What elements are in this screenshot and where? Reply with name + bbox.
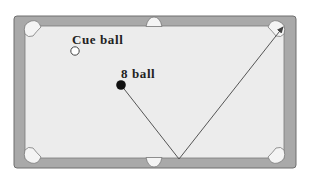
eight-ball-label: 8 ball	[121, 67, 155, 80]
pool-table-diagram	[0, 0, 310, 184]
cue-ball	[71, 47, 79, 55]
cue-ball-label: Cue ball	[72, 33, 123, 46]
table-felt	[25, 26, 284, 158]
eight-ball	[116, 80, 126, 90]
